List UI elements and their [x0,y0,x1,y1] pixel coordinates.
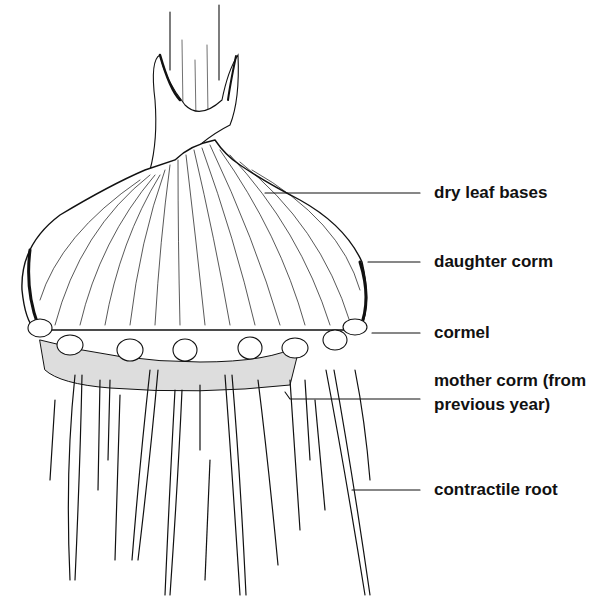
label-contractile-root: contractile root [434,478,558,502]
label-daughter-corm: daughter corm [434,250,553,274]
label-mother-corm-line1: mother corm (from [434,369,586,393]
label-mother-corm-line2: previous year) [434,393,550,417]
label-cormel: cormel [434,321,490,345]
label-dry-leaf-bases: dry leaf bases [434,181,547,205]
corm-illustration [0,0,607,608]
daughter-corm-body [22,140,367,330]
roots [50,370,370,595]
